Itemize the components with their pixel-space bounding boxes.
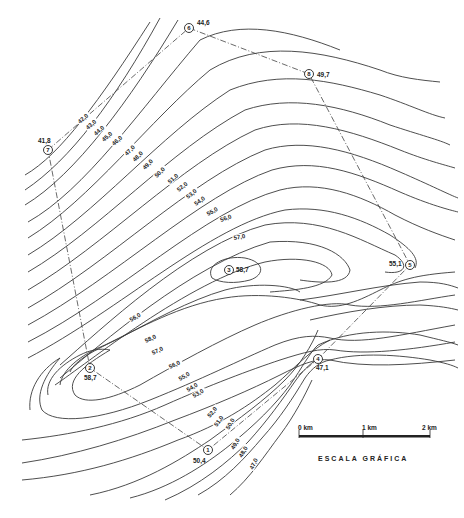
point-elevation: 49,7: [317, 71, 330, 79]
point-elevation: 50,4: [193, 457, 206, 465]
point-elevation: 58,7: [84, 374, 97, 382]
contour-label: 57,0: [233, 233, 246, 241]
survey-point-3: 358,7: [225, 266, 250, 275]
point-elevation: 41,8: [38, 137, 51, 145]
point-elevation: 44,6: [197, 19, 210, 27]
topographic-map: 42,043,044,045,046,047,048,049,050,051,0…: [0, 0, 464, 518]
point-elevation: 47,1: [316, 364, 329, 372]
point-elevation: 55,1: [389, 260, 402, 268]
survey-point-6: 644,6: [185, 19, 211, 33]
scale-label-2: 2 km: [422, 424, 437, 431]
scale-bar-line: [299, 435, 430, 438]
survey-point-4: 447,1: [314, 355, 330, 373]
point-elevation: 58,7: [236, 266, 249, 274]
survey-point-7: 741,8: [38, 137, 53, 155]
survey-point-1: 150,4: [193, 446, 213, 466]
survey-point-8: 849,7: [305, 70, 331, 80]
scale-bar: 0 km 1 km 2 km ESCALA GRÁFICA: [298, 424, 437, 462]
contour-lines: [22, 18, 458, 500]
contour-labels: 42,043,044,045,046,047,048,049,050,051,0…: [76, 111, 260, 471]
scale-title: ESCALA GRÁFICA: [318, 454, 408, 462]
survey-point-2: 258,7: [84, 364, 97, 383]
survey-points: 150,4258,7358,7447,1555,1644,6741,8849,7: [38, 19, 415, 465]
scale-label-1: 1 km: [362, 424, 377, 431]
scale-label-0: 0 km: [298, 424, 313, 431]
